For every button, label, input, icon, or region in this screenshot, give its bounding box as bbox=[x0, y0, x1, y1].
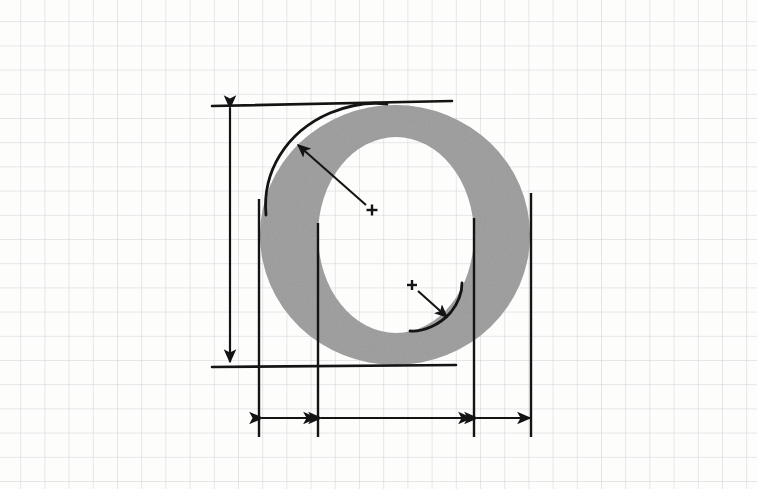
letterform-diagram bbox=[0, 0, 757, 489]
letter-glyph-o bbox=[260, 105, 530, 365]
diagram-canvas bbox=[0, 0, 757, 489]
letter-o-outer-bowl bbox=[260, 105, 530, 365]
